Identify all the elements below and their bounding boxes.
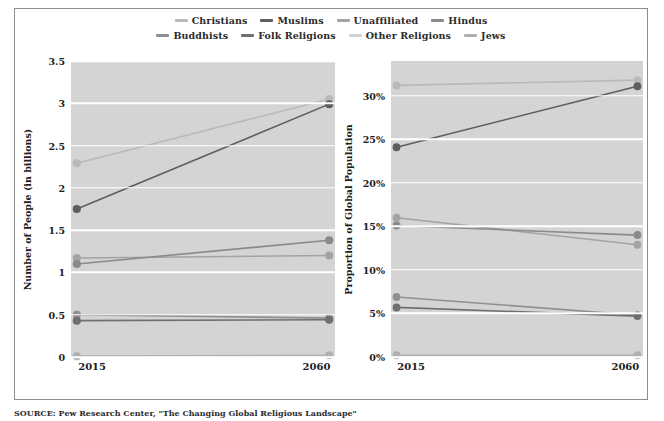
y-tick-labels-right: 0%5%10%15%20%25%30% <box>355 61 389 357</box>
legend-swatch-icon <box>349 34 362 37</box>
legend-swatch-icon <box>241 34 254 37</box>
data-point <box>634 241 642 249</box>
y-tick-label: 30% <box>363 90 385 101</box>
data-point <box>325 100 333 108</box>
series-line <box>77 99 329 163</box>
series-line <box>397 218 638 245</box>
y-tick-label: 2 <box>58 182 65 193</box>
x-tick-labels-right: 20152060 <box>391 359 643 379</box>
gridline <box>71 145 335 147</box>
y-tick-label: 3 <box>58 98 65 109</box>
data-point <box>325 236 333 244</box>
y-tick-label: 2.5 <box>48 140 65 151</box>
y-axis-title-right: Proportion of Global Population <box>341 61 355 357</box>
y-tick-label: 10% <box>363 264 385 275</box>
chart-proportion-of-global-population: Proportion of Global Population 0%5%10%1… <box>341 61 647 399</box>
x-tick-labels-left: 20152060 <box>71 359 335 379</box>
legend-item-label: Other Religions <box>366 30 451 41</box>
plot-inner-right <box>391 61 643 357</box>
series-line <box>77 256 329 259</box>
data-point <box>325 252 333 260</box>
gridline <box>71 314 335 316</box>
series-line <box>77 320 329 321</box>
data-point <box>73 205 81 213</box>
legend-row-2: BuddhistsFolk ReligionsOther ReligionsJe… <box>156 30 505 41</box>
gridline <box>391 95 643 97</box>
data-point <box>634 82 642 90</box>
series-line <box>397 80 638 85</box>
gridline <box>391 226 643 228</box>
y-tick-label: 25% <box>363 134 385 145</box>
legend-swatch-icon <box>464 34 477 37</box>
gridline <box>71 187 335 189</box>
x-tick-label: 2060 <box>303 361 331 372</box>
series-hindus <box>393 222 642 240</box>
data-point <box>73 317 81 325</box>
data-point <box>393 81 401 89</box>
y-tick-label: 20% <box>363 177 385 188</box>
chart-page: ChristiansMuslimsUnaffiliatedHindus Budd… <box>0 0 664 421</box>
series-other-religions <box>393 346 642 355</box>
y-axis-title-right-label: Proportion of Global Population <box>343 124 354 294</box>
legend-item-muslims[interactable]: Muslims <box>260 15 323 26</box>
series-line <box>77 240 329 264</box>
legend-item-buddhists[interactable]: Buddhists <box>156 30 228 41</box>
legend-swatch-icon <box>431 19 444 22</box>
y-tick-label: 0.5 <box>48 309 65 320</box>
data-point <box>393 143 401 151</box>
gridline <box>391 356 643 358</box>
gridline <box>71 229 335 231</box>
y-tick-label: 1 <box>58 267 65 278</box>
legend-item-other-religions[interactable]: Other Religions <box>349 30 451 41</box>
series-line <box>77 104 329 209</box>
legend-swatch-icon <box>156 34 169 37</box>
gridline <box>71 272 335 274</box>
legend: ChristiansMuslimsUnaffiliatedHindus Budd… <box>15 15 647 41</box>
legend-item-unaffiliated[interactable]: Unaffiliated <box>337 15 419 26</box>
legend-swatch-icon <box>175 19 188 22</box>
x-tick-label: 2060 <box>611 361 639 372</box>
legend-item-hindus[interactable]: Hindus <box>431 15 487 26</box>
legend-swatch-icon <box>260 19 273 22</box>
legend-item-jews[interactable]: Jews <box>464 30 505 41</box>
y-axis-title-left: Number of People (in billions) <box>21 61 35 357</box>
series-muslims <box>393 82 642 151</box>
gridline <box>391 182 643 184</box>
y-tick-label: 3.5 <box>48 56 65 67</box>
series-line <box>397 350 638 351</box>
legend-row-1: ChristiansMuslimsUnaffiliatedHindus <box>175 15 488 26</box>
legend-item-label: Christians <box>192 15 248 26</box>
charts-container: Number of People (in billions) 00.511.52… <box>15 61 647 399</box>
series-unaffiliated <box>393 214 642 249</box>
y-tick-label: 0 <box>58 352 65 363</box>
y-axis-title-left-label: Number of People (in billions) <box>23 128 34 290</box>
legend-item-label: Muslims <box>277 15 323 26</box>
gridline <box>391 269 643 271</box>
series-christians <box>393 76 642 89</box>
x-tick-label: 2015 <box>397 361 425 372</box>
legend-swatch-icon <box>337 19 350 22</box>
series-muslims <box>73 100 334 213</box>
gridline <box>71 103 335 105</box>
legend-item-christians[interactable]: Christians <box>175 15 248 26</box>
legend-item-label: Unaffiliated <box>354 15 419 26</box>
y-tick-label: 15% <box>363 221 385 232</box>
legend-item-label: Jews <box>481 30 505 41</box>
legend-item-label: Hindus <box>448 15 487 26</box>
chart-panel: ChristiansMuslimsUnaffiliatedHindus Budd… <box>14 8 648 400</box>
plot-area-right <box>391 61 643 357</box>
data-point <box>634 231 642 239</box>
legend-item-folk-religions[interactable]: Folk Religions <box>241 30 335 41</box>
data-point <box>393 303 401 311</box>
gridline <box>391 313 643 315</box>
data-point <box>73 159 81 167</box>
data-point <box>325 316 333 324</box>
plot-area-left <box>71 61 335 357</box>
legend-item-label: Folk Religions <box>258 30 335 41</box>
gridline <box>71 356 335 358</box>
plot-inner-left <box>71 61 335 357</box>
data-point <box>73 260 81 268</box>
series-hindus <box>73 236 334 268</box>
y-tick-label: 0% <box>369 352 385 363</box>
data-point <box>393 214 401 222</box>
